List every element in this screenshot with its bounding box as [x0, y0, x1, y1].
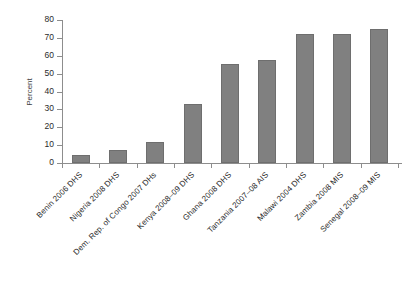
- y-axis-tick-label-text: 70: [34, 33, 54, 42]
- x-axis-tick: [211, 164, 212, 168]
- x-axis-tick: [361, 164, 362, 168]
- y-axis-tick-label: 70: [34, 33, 54, 43]
- x-axis-tick: [323, 164, 324, 168]
- bar: [109, 150, 127, 163]
- y-axis-tick-label: 50: [34, 69, 54, 79]
- bar: [370, 29, 388, 163]
- bar-chart: Percent 01020304050607080 Benin 2006 DHS…: [0, 0, 414, 283]
- x-axis-tick: [398, 164, 399, 168]
- y-axis-tick-label: 10: [34, 140, 54, 150]
- x-axis-category-label: Benin 2006 DHS: [0, 170, 84, 283]
- bar: [221, 64, 239, 163]
- x-axis-tick: [174, 164, 175, 168]
- y-axis-tick-label-text: 60: [34, 51, 54, 60]
- bar: [296, 34, 314, 163]
- y-axis-tick-label-text: 0: [34, 158, 54, 167]
- x-axis-tick: [286, 164, 287, 168]
- y-axis-tick-label: 80: [34, 15, 54, 25]
- y-axis-title-label: Percent: [25, 78, 34, 106]
- x-axis-tick: [249, 164, 250, 168]
- y-axis-tick-label-text: 50: [34, 69, 54, 78]
- y-axis-tick-label-text: 20: [34, 122, 54, 131]
- y-axis-tick-label: 40: [34, 87, 54, 97]
- x-axis-tick: [137, 164, 138, 168]
- bar: [146, 142, 164, 163]
- bar: [333, 34, 351, 163]
- y-axis-tick-label: 30: [34, 104, 54, 114]
- bar: [258, 60, 276, 163]
- bars-container: [62, 20, 398, 163]
- y-axis-tick-label: 0: [34, 158, 54, 168]
- y-axis-tick-label-text: 80: [34, 15, 54, 24]
- y-axis-tick-label-text: 10: [34, 140, 54, 149]
- y-axis-tick-label: 60: [34, 51, 54, 61]
- y-axis-tick-label-text: 40: [34, 87, 54, 96]
- bar: [184, 104, 202, 163]
- bar: [72, 155, 90, 163]
- y-axis-tick-label: 20: [34, 122, 54, 132]
- x-axis-line: [62, 163, 402, 164]
- x-axis-tick: [99, 164, 100, 168]
- x-axis-tick: [62, 164, 63, 168]
- y-axis-tick-label-text: 30: [34, 104, 54, 113]
